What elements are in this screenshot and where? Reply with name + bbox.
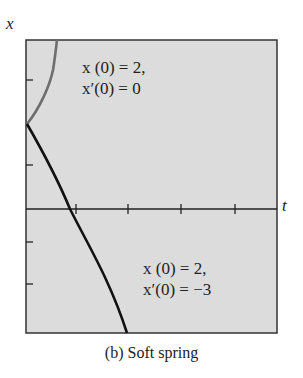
x-axis-label: x [6, 14, 14, 34]
annotation-bottom-line2: x′(0) = −3 [143, 279, 211, 300]
annotation-top-line2: x′(0) = 0 [82, 78, 145, 99]
annotation-bottom: x (0) = 2, x′(0) = −3 [143, 258, 211, 300]
annotation-bottom-line1: x (0) = 2, [143, 258, 211, 279]
t-axis-label: t [282, 196, 287, 216]
soft-spring-figure: x t x (0) = 2, x′(0) = 0 x (0) = 2, x′(0… [0, 0, 303, 378]
figure-caption: (b) Soft spring [0, 344, 303, 362]
annotation-top-line1: x (0) = 2, [82, 57, 145, 78]
plot-area [0, 0, 303, 378]
annotation-top: x (0) = 2, x′(0) = 0 [82, 57, 145, 99]
